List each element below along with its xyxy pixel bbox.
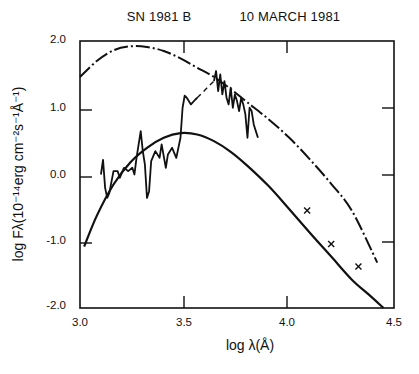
dashed-gap-line	[197, 81, 214, 98]
data-point-marker	[328, 241, 334, 247]
data-point-marker	[355, 264, 361, 270]
data-point-marker	[304, 208, 310, 214]
dash-dot-curve	[80, 46, 377, 263]
series-layer	[80, 46, 384, 308]
plot-frame	[80, 41, 394, 308]
plot-area	[0, 0, 419, 374]
axis-ticks	[80, 41, 394, 308]
solid-fit-curve	[84, 133, 383, 308]
spectrum-line	[214, 71, 258, 138]
